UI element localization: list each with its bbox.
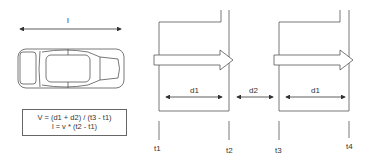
time-ticks: [159, 121, 349, 140]
length-label: l: [67, 17, 69, 25]
t1-label: t1: [154, 145, 161, 153]
t4-label: t4: [346, 143, 353, 151]
formula-velocity: V = (d1 + d2) / (t3 - t1): [23, 113, 126, 122]
d1-label-2: d1: [311, 87, 320, 95]
d2-label: d2: [249, 87, 258, 95]
t2-label: t2: [226, 147, 233, 155]
formula-box: V = (d1 + d2) / (t3 - t1) l = v * (t2 - …: [22, 109, 127, 136]
diagram-canvas: [0, 0, 370, 161]
direction-arrow-2: [274, 50, 353, 70]
d1-label-1: d1: [190, 87, 199, 95]
formula-length: l = v * (t2 - t1): [23, 122, 126, 131]
car-icon: [18, 49, 124, 88]
t3-label: t3: [275, 147, 282, 155]
direction-arrow-1: [154, 50, 233, 70]
